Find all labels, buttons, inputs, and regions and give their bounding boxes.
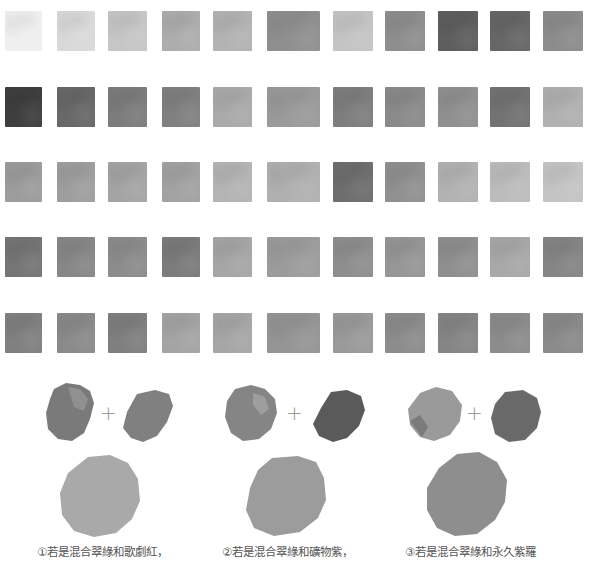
color-swatch-r1-c3 (108, 11, 147, 51)
color-swatch-r2-c7 (333, 87, 373, 127)
color-swatch-r1-c9 (438, 11, 478, 51)
color-swatch-r3-c11 (543, 162, 583, 202)
paint-blob-permanent-violet (489, 388, 543, 444)
color-swatch-r2-c1 (5, 87, 42, 127)
mix-caption-2: ②若是混合翠綠和礦物紫， (222, 543, 353, 559)
color-swatch-r4-c8 (385, 237, 425, 277)
color-swatch-r3-c3 (108, 162, 147, 202)
color-swatch-r5-c3 (108, 313, 147, 353)
color-swatch-r5-c6 (267, 313, 320, 353)
mix-result-blob-2 (244, 454, 330, 538)
color-swatch-r3-c4 (162, 162, 200, 202)
color-swatch-r3-c8 (385, 162, 425, 202)
color-swatch-r5-c4 (162, 313, 200, 353)
color-swatch-r2-c11 (543, 87, 583, 127)
mix-caption-1: ①若是混合翠綠和歌劇紅， (37, 543, 168, 559)
color-swatch-r2-c4 (162, 87, 200, 127)
color-swatch-r1-c7 (333, 11, 373, 51)
color-swatch-r3-c1 (5, 162, 42, 202)
paint-blob-opera-red (121, 388, 175, 444)
color-swatch-r2-c10 (490, 87, 530, 127)
color-swatch-r2-c2 (57, 87, 95, 127)
color-swatch-r3-c9 (438, 162, 478, 202)
color-swatch-r4-c2 (57, 237, 95, 277)
paint-blob-green-2 (223, 383, 279, 443)
mix-caption-3: ③若是混合翠綠和永久紫羅 (405, 543, 536, 559)
paint-blob-green-1 (44, 381, 96, 443)
color-swatch-r5-c8 (385, 313, 425, 353)
color-swatch-r1-c5 (213, 11, 252, 51)
color-swatch-r5-c11 (543, 313, 583, 353)
color-swatch-r3-c7 (333, 162, 373, 202)
color-swatch-r4-c4 (162, 237, 200, 277)
plus-icon: + (286, 403, 303, 423)
color-swatch-r1-c11 (543, 11, 583, 51)
color-swatch-r5-c1 (5, 313, 42, 353)
color-swatch-r1-c10 (490, 11, 530, 51)
color-swatch-r5-c5 (213, 313, 252, 353)
color-swatch-r4-c5 (213, 237, 252, 277)
paint-blob-mineral-violet (311, 388, 367, 444)
color-swatch-r1-c8 (385, 11, 425, 51)
color-swatch-r3-c10 (490, 162, 530, 202)
color-swatch-r5-c7 (333, 313, 373, 353)
color-swatch-r1-c4 (162, 11, 200, 51)
plus-icon: + (466, 403, 483, 423)
color-swatch-r1-c1 (5, 11, 42, 51)
color-swatch-r4-c6 (267, 237, 320, 277)
color-swatch-r5-c10 (490, 313, 530, 353)
color-swatch-r5-c9 (438, 313, 478, 353)
color-swatch-r4-c1 (5, 237, 42, 277)
color-swatch-r2-c9 (438, 87, 478, 127)
color-swatch-r4-c3 (108, 237, 147, 277)
mix-result-blob-3 (423, 450, 511, 538)
color-swatch-r1-c6 (267, 11, 320, 51)
color-swatch-r4-c11 (543, 237, 583, 277)
color-swatch-r1-c2 (57, 11, 95, 51)
color-swatch-r4-c10 (490, 237, 530, 277)
color-swatch-r2-c3 (108, 87, 147, 127)
color-swatch-r4-c9 (438, 237, 478, 277)
color-swatch-r2-c5 (213, 87, 252, 127)
color-swatch-r3-c5 (213, 162, 252, 202)
color-swatch-r2-c8 (385, 87, 425, 127)
mix-result-blob-1 (58, 453, 144, 539)
plus-icon: + (100, 403, 117, 423)
color-swatch-r5-c2 (57, 313, 95, 353)
color-swatch-r2-c6 (267, 87, 320, 127)
color-swatch-r3-c6 (267, 162, 320, 202)
color-swatch-r3-c2 (57, 162, 95, 202)
color-swatch-r4-c7 (333, 237, 373, 277)
paint-blob-green-3 (406, 385, 464, 443)
